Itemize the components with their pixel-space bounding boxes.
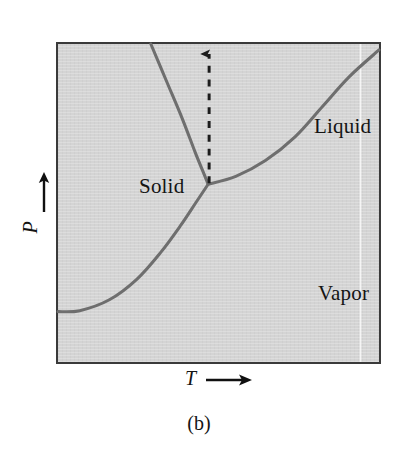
phase-diagram-figure: Solid Liquid Vapor P T (b) xyxy=(0,0,398,454)
x-axis-label-group: T xyxy=(185,367,265,393)
plot-area: Solid Liquid Vapor xyxy=(56,42,381,364)
region-label-solid: Solid xyxy=(139,174,184,199)
y-axis-letter: P xyxy=(19,221,42,233)
phase-boundary-curves xyxy=(58,44,379,362)
figure-caption: (b) xyxy=(0,412,398,435)
y-axis-label-group: P xyxy=(18,172,58,242)
x-axis-letter: T xyxy=(185,367,196,390)
up-arrow-icon xyxy=(38,172,50,212)
right-arrow-icon xyxy=(206,373,252,387)
region-label-liquid: Liquid xyxy=(314,114,371,139)
fusion-curve-solid-liquid xyxy=(151,44,208,184)
sublimation-curve-solid-vapor xyxy=(58,184,208,312)
region-label-vapor: Vapor xyxy=(318,281,369,306)
